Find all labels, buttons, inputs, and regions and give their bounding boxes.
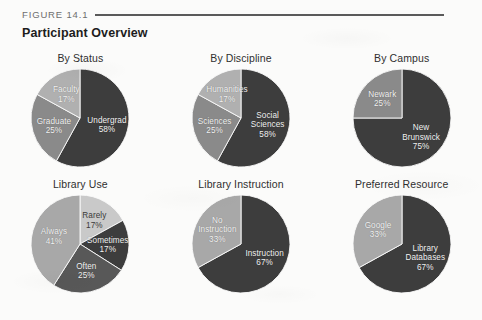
pie-chart-cell: By StatusUndergrad 58%Graduate 25%Facult…	[0, 52, 161, 178]
pie-chart-cell: Library UseRarely 17%Sometimes 17%Often …	[0, 178, 161, 304]
chart-title: By Campus	[374, 52, 429, 64]
pie-svg	[30, 68, 130, 168]
pie-chart: Undergrad 58%Graduate 25%Faculty 17%	[30, 68, 130, 168]
pie-svg	[191, 68, 291, 168]
pie-svg	[30, 194, 130, 294]
figure-number: FIGURE 14.1	[22, 9, 88, 21]
pie-chart-cell: By CampusNew Brunswick 75%Newark 25%	[321, 52, 482, 178]
figure-rule-divider	[95, 14, 444, 16]
chart-title: Library Use	[53, 178, 108, 190]
pie-chart: New Brunswick 75%Newark 25%	[352, 68, 452, 168]
pie-chart-cell: Preferred ResourceLibrary Databases 67%G…	[321, 178, 482, 304]
figure-header: FIGURE 14.1 Participant Overview	[22, 9, 466, 41]
pie-slice	[353, 69, 402, 118]
pie-svg	[352, 194, 452, 294]
pie-chart-cell: Library InstructionInstruction 67%No Ins…	[161, 178, 322, 304]
pie-svg	[191, 194, 291, 294]
pie-chart: Instruction 67%No Instruction 33%	[191, 194, 291, 294]
pie-chart-grid: By StatusUndergrad 58%Graduate 25%Facult…	[0, 52, 482, 304]
pie-chart: Social Sciences 58%Sciences 25%Humanitie…	[191, 68, 291, 168]
chart-title: Preferred Resource	[355, 178, 448, 190]
chart-title: By Discipline	[210, 52, 271, 64]
page-title: Participant Overview	[22, 26, 466, 41]
chart-title: Library Instruction	[198, 178, 283, 190]
figure-label-row: FIGURE 14.1	[22, 9, 466, 21]
pie-chart: Rarely 17%Sometimes 17%Often 25%Always 4…	[30, 194, 130, 294]
pie-chart: Library Databases 67%Google 33%	[352, 194, 452, 294]
pie-chart-cell: By DisciplineSocial Sciences 58%Sciences…	[161, 52, 322, 178]
chart-title: By Status	[57, 52, 103, 64]
pie-svg	[352, 68, 452, 168]
